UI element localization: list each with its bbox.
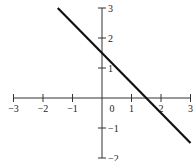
origin-label: 0: [110, 103, 115, 114]
line-chart: −3−2−1123−2−11230: [0, 0, 194, 161]
y-tick-label: −1: [108, 123, 119, 134]
tick-labels: −3−2−1123−2−11230: [8, 3, 193, 161]
axes: [14, 8, 191, 158]
y-tick-label: 2: [108, 33, 113, 44]
x-tick-label: −3: [8, 103, 19, 114]
y-tick-label: 3: [108, 3, 113, 14]
line-series: [58, 8, 191, 143]
x-tick-label: 1: [129, 103, 134, 114]
x-tick-label: 3: [188, 103, 193, 114]
x-tick-label: −1: [67, 103, 78, 114]
y-tick-label: −2: [108, 153, 119, 161]
x-tick-label: −2: [38, 103, 49, 114]
data-series: [58, 8, 191, 143]
